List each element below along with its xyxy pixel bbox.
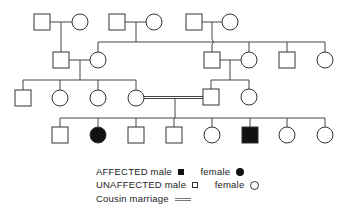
unaffected-female-III-4-circle-icon bbox=[128, 90, 144, 106]
unaffected-female-I-2-circle-icon bbox=[72, 14, 88, 30]
unaffected-male-square-icon bbox=[192, 182, 198, 188]
legend-female-label: female bbox=[201, 166, 231, 177]
affected-female-IV-2-circle-icon bbox=[90, 127, 106, 143]
unaffected-female-IV-7-circle-icon bbox=[279, 127, 295, 143]
affected-male-IV-6-square-icon bbox=[242, 127, 258, 143]
unaffected-male-I-1-square-icon bbox=[34, 14, 50, 30]
legend-affected-label: AFFECTED bbox=[96, 166, 148, 177]
unaffected-female-III-6-circle-icon bbox=[241, 89, 257, 105]
legend-unaffected-label: UNAFFECTED bbox=[96, 179, 162, 190]
unaffected-male-IV-1-square-icon bbox=[52, 127, 68, 143]
unaffected-male-III-5-square-icon bbox=[203, 89, 219, 105]
unaffected-female-circle-icon bbox=[250, 181, 259, 190]
unaffected-female-IV-5-circle-icon bbox=[204, 127, 220, 143]
unaffected-male-II-1-square-icon bbox=[53, 52, 69, 68]
legend-male-label: male bbox=[165, 179, 186, 190]
unaffected-male-IV-4-square-icon bbox=[166, 127, 182, 143]
legend-cousin-row: Cousin marriage bbox=[96, 193, 194, 204]
unaffected-male-IV-3-square-icon bbox=[128, 127, 144, 143]
affected-female-circle-icon bbox=[236, 168, 244, 176]
pedigree-diagram: AFFECTED male female UNAFFECTED male fem… bbox=[0, 0, 348, 209]
legend-female-label: female bbox=[215, 179, 245, 190]
unaffected-female-IV-8-circle-icon bbox=[317, 127, 333, 143]
unaffected-male-II-5-square-icon bbox=[279, 52, 295, 68]
legend-male-label: male bbox=[151, 166, 172, 177]
legend-affected-row: AFFECTED male female bbox=[96, 166, 247, 177]
unaffected-male-II-3-square-icon bbox=[204, 52, 220, 68]
legend-unaffected-row: UNAFFECTED male female bbox=[96, 179, 262, 190]
unaffected-female-II-4-circle-icon bbox=[241, 52, 257, 68]
unaffected-male-I-3-square-icon bbox=[109, 14, 125, 30]
unaffected-female-III-2-circle-icon bbox=[52, 90, 68, 106]
unaffected-female-II-6-circle-icon bbox=[317, 52, 333, 68]
unaffected-male-I-5-square-icon bbox=[186, 14, 202, 30]
unaffected-female-II-2-circle-icon bbox=[90, 52, 106, 68]
legend-cousin-marriage-label: Cousin marriage bbox=[96, 193, 169, 204]
unaffected-female-III-3-circle-icon bbox=[90, 90, 106, 106]
unaffected-female-I-4-circle-icon bbox=[146, 14, 162, 30]
unaffected-female-I-6-circle-icon bbox=[222, 14, 238, 30]
affected-male-square-icon bbox=[178, 169, 184, 175]
unaffected-male-III-1-square-icon bbox=[15, 90, 31, 106]
double-line-icon bbox=[175, 198, 191, 201]
pedigree-chart bbox=[0, 0, 348, 209]
